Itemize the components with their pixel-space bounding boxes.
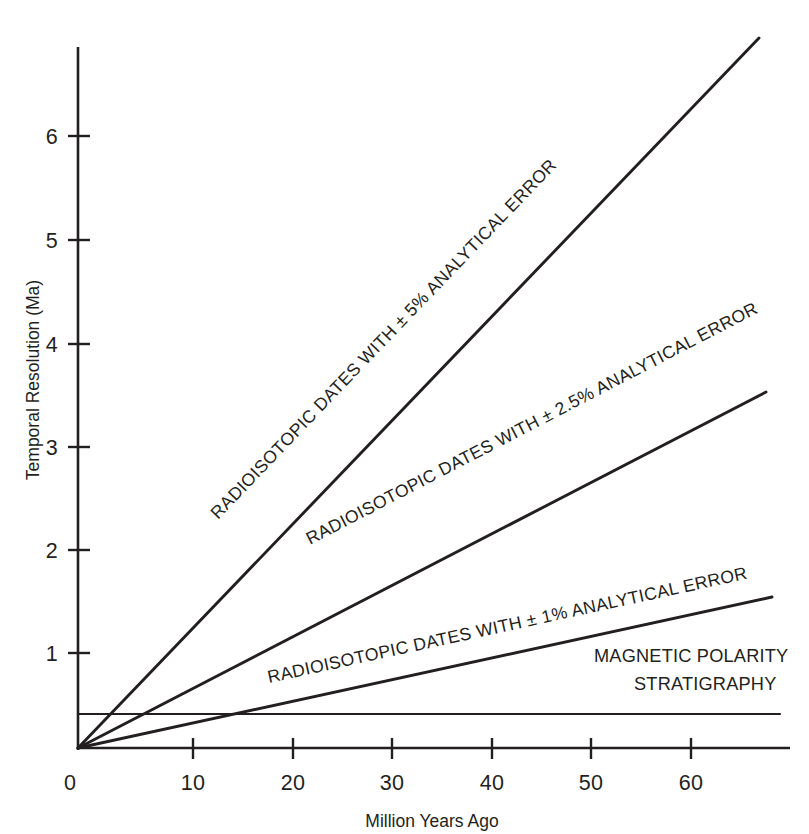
magnetic-polarity-label-line2: STRATIGRAPHY <box>634 674 777 694</box>
x-axis-title: Million Years Ago <box>365 811 498 831</box>
x-tick-label-40: 40 <box>480 771 504 795</box>
series-line-2-5-percent <box>78 392 766 748</box>
y-tick-label-3: 3 <box>46 436 58 460</box>
chart-figure: 1 2 3 4 5 6 0 10 20 30 40 50 60 Tempora <box>0 0 809 834</box>
x-tick-labels: 0 10 20 30 40 50 60 <box>64 771 703 795</box>
x-tick-label-30: 30 <box>380 771 404 795</box>
x-tick-label-20: 20 <box>281 771 305 795</box>
x-tick-label-50: 50 <box>579 771 603 795</box>
x-tick-label-10: 10 <box>181 771 205 795</box>
magnetic-polarity-annotation: MAGNETIC POLARITY STRATIGRAPHY <box>594 646 788 694</box>
y-axis-title: Temporal Resolution (Ma) <box>23 280 43 480</box>
x-tick-label-60: 60 <box>679 771 703 795</box>
x-tick-label-0: 0 <box>64 771 76 795</box>
series-label-1-percent: RADIOISOTOPIC DATES WITH ± 1% ANALYTICAL… <box>266 563 749 687</box>
series-label-5-percent: RADIOISOTOPIC DATES WITH ± 5% ANALYTICAL… <box>206 155 560 523</box>
series-line-1-percent <box>78 597 772 748</box>
y-tick-label-6: 6 <box>46 125 58 149</box>
y-tick-label-5: 5 <box>46 229 58 253</box>
y-tick-label-1: 1 <box>46 642 58 666</box>
temporal-resolution-line-chart: 1 2 3 4 5 6 0 10 20 30 40 50 60 Tempora <box>0 0 809 834</box>
magnetic-polarity-label-line1: MAGNETIC POLARITY <box>594 646 788 666</box>
y-tick-label-2: 2 <box>46 539 58 563</box>
y-tick-label-4: 4 <box>46 333 58 357</box>
y-tick-labels: 1 2 3 4 5 6 <box>46 125 58 666</box>
